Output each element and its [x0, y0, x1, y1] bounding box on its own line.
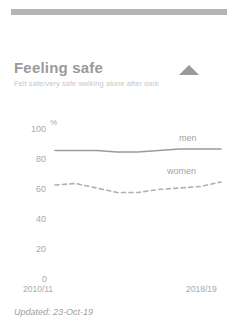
- series-line-women: [55, 182, 221, 193]
- y-tick-80: 80: [36, 154, 46, 164]
- series-line-men: [55, 149, 221, 152]
- y-tick-60: 60: [36, 184, 46, 194]
- series-label-women: women: [166, 166, 196, 176]
- line-chart: % 100 80 60 40 20 0 men women 2010/11 20…: [0, 110, 238, 300]
- x-tick-end: 2018/19: [186, 284, 217, 294]
- last-updated-label: Updated: 23-Oct-19: [14, 307, 93, 317]
- card-subtitle: Felt safe/very safe walking alone after …: [14, 79, 226, 88]
- y-tick-20: 20: [36, 244, 46, 254]
- x-tick-start: 2010/11: [23, 284, 53, 294]
- card-header: Feeling safe: [0, 26, 238, 66]
- series-label-men: men: [179, 133, 197, 143]
- triangle-up-icon[interactable]: [176, 62, 202, 78]
- y-tick-40: 40: [36, 214, 46, 224]
- y-axis-unit-label: %: [50, 118, 57, 127]
- y-tick-100: 100: [31, 124, 46, 134]
- top-accent-bar: [11, 9, 227, 15]
- page-title: Feeling safe: [14, 59, 103, 76]
- y-tick-0: 0: [42, 274, 47, 284]
